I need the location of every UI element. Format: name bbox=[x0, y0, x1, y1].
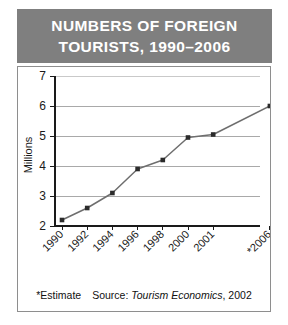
x-tick-label-2001: 2001 bbox=[191, 228, 217, 254]
data-point-marker bbox=[186, 135, 191, 140]
y-tick-label-5: 5 bbox=[39, 129, 46, 143]
estimate-note: *Estimate bbox=[36, 289, 81, 301]
x-tick-label-1992: 1992 bbox=[65, 228, 91, 254]
chart-panel: 234567Millions19901992199419961998200020… bbox=[17, 66, 271, 312]
x-tick-label-1998: 1998 bbox=[140, 228, 166, 254]
x-tick-label-2000: 2000 bbox=[166, 228, 192, 254]
x-tick-label-1994: 1994 bbox=[90, 228, 116, 254]
y-tick-label-6: 6 bbox=[39, 99, 46, 113]
page-title-line-1: NUMBERS OF FOREIGN bbox=[51, 15, 237, 36]
page-title-line-2: TOURISTS, 1990–2006 bbox=[59, 36, 231, 57]
y-axis-title: Millions bbox=[22, 136, 34, 173]
source-year: , 2002 bbox=[223, 289, 252, 301]
series-line bbox=[62, 106, 270, 220]
line-chart-plot: 234567Millions19901992199419961998200020… bbox=[18, 67, 270, 311]
data-point-marker bbox=[161, 158, 166, 163]
data-point-marker bbox=[135, 167, 140, 172]
data-point-marker bbox=[85, 206, 90, 211]
data-point-marker bbox=[110, 191, 115, 196]
source-prefix: Source: bbox=[92, 289, 131, 301]
data-point-marker bbox=[268, 104, 270, 109]
data-point-marker bbox=[60, 218, 65, 223]
chart-footer: *EstimateSource: Tourism Economics, 2002 bbox=[17, 289, 271, 301]
chart-title-banner: NUMBERS OF FOREIGN TOURISTS, 1990–2006 bbox=[17, 9, 272, 63]
y-tick-label-7: 7 bbox=[39, 69, 46, 83]
y-tick-label-3: 3 bbox=[39, 189, 46, 203]
chart-figure: NUMBERS OF FOREIGN TOURISTS, 1990–2006 2… bbox=[0, 0, 288, 325]
y-tick-label-4: 4 bbox=[39, 159, 46, 173]
x-tick-label-est-2006: *2006 bbox=[244, 228, 270, 257]
source-name: Tourism Economics bbox=[131, 289, 222, 301]
data-point-marker bbox=[211, 132, 216, 137]
x-tick-label-1996: 1996 bbox=[115, 228, 141, 254]
y-tick-label-2: 2 bbox=[39, 219, 46, 233]
